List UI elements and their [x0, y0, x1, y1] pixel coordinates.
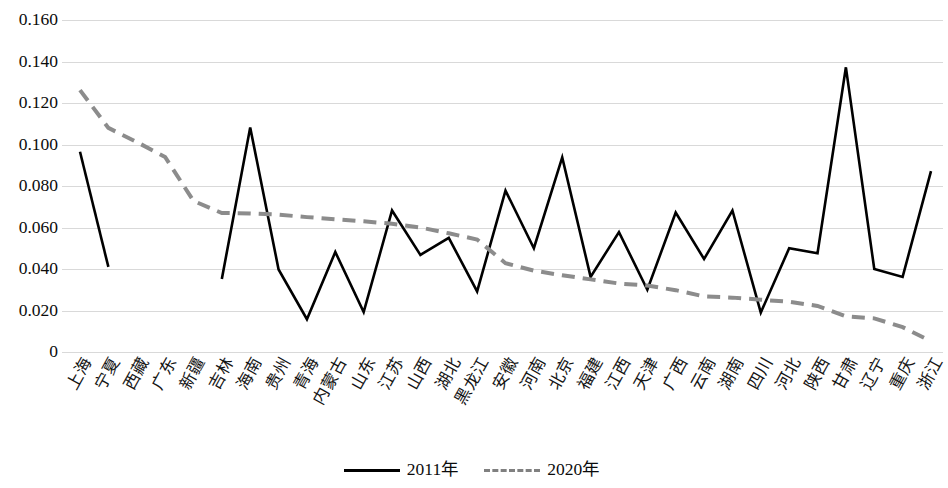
- legend-item-2011: 2011年: [344, 461, 458, 479]
- y-tick-label: 0.140: [19, 53, 58, 71]
- x-tick-label: 新疆: [172, 352, 209, 393]
- x-tick-label: 海南: [229, 352, 266, 393]
- x-tick-label: 贵州: [258, 352, 295, 393]
- x-tick-label: 重庆: [882, 352, 919, 393]
- y-tick-label: 0.100: [19, 136, 58, 154]
- x-tick-label: 福建: [570, 352, 607, 393]
- legend-swatch-dashed-line-icon: [484, 469, 540, 472]
- series-line-2020年: [80, 90, 931, 341]
- legend-label-2011: 2011年: [407, 461, 458, 479]
- plot-area: [62, 0, 943, 360]
- x-tick-label: 宁夏: [87, 352, 124, 393]
- x-tick-label: 山西: [399, 352, 436, 393]
- legend-item-2020: 2020年: [484, 461, 599, 479]
- x-tick-label: 天津: [626, 352, 663, 393]
- x-tick-label: 安徽: [485, 352, 522, 393]
- x-axis: 上海宁夏西藏广东新疆吉林海南贵州青海内蒙古山东江苏山西湖北黑龙江安徽河南北京福建…: [62, 356, 943, 452]
- series-line-2011年: [222, 67, 931, 319]
- x-tick-label: 浙江: [910, 352, 947, 393]
- y-axis: 00.0200.0400.0600.0800.1000.1200.1400.16…: [0, 0, 62, 360]
- y-tick-label: 0.120: [19, 94, 58, 112]
- series-line-2011年: [80, 152, 108, 267]
- y-tick-label: 0: [49, 343, 58, 361]
- x-tick-label: 陕西: [797, 352, 834, 393]
- legend-swatch-solid-line-icon: [344, 469, 400, 472]
- y-tick-label: 0.160: [19, 11, 58, 29]
- legend-label-2020: 2020年: [547, 461, 599, 479]
- series-canvas: [62, 0, 943, 360]
- chart-legend: 2011年 2020年: [0, 452, 943, 488]
- x-tick-label: 湖南: [711, 352, 748, 393]
- y-tick-label: 0.040: [19, 260, 58, 278]
- x-tick-label: 北京: [541, 352, 578, 393]
- y-tick-label: 0.060: [19, 219, 58, 237]
- x-tick-label: 河北: [768, 352, 805, 393]
- y-tick-label: 0.020: [19, 302, 58, 320]
- x-tick-label: 辽宁: [853, 352, 890, 393]
- y-tick-label: 0.080: [19, 177, 58, 195]
